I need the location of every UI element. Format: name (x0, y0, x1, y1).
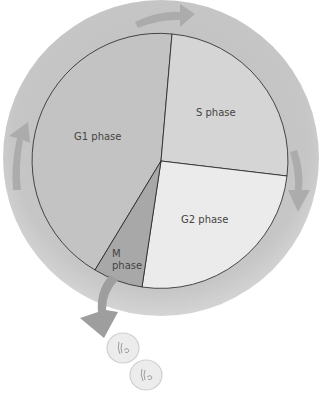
daughter-cell-1 (107, 333, 139, 363)
cell-cycle-diagram: G1 phase S phase G2 phase M phase (0, 0, 321, 394)
m-phase-label-line2: phase (112, 260, 142, 271)
s-phase-label: S phase (196, 107, 236, 118)
m-phase-label-line1: M (112, 248, 121, 259)
daughter-cell-2 (130, 360, 162, 390)
diagram-canvas (0, 0, 321, 394)
g1-phase-label: G1 phase (74, 131, 121, 142)
g2-phase-label: G2 phase (181, 214, 228, 225)
